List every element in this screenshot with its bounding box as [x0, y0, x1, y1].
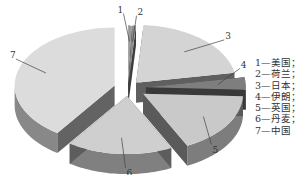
- legend-entry-4: 4—伊朗；: [255, 91, 301, 102]
- slice-label-6: 6: [127, 168, 133, 175]
- legend-entry-7: 7—中国: [255, 125, 301, 136]
- legend-entry-1: 1—美国；: [255, 57, 301, 68]
- slice-label-5: 5: [212, 145, 218, 155]
- legend-entry-3: 3—日本；: [255, 80, 301, 91]
- slice-label-1: 1: [118, 5, 124, 15]
- slice-label-3: 3: [225, 31, 231, 41]
- legend-entry-2: 2—荷兰；: [255, 68, 301, 79]
- pie-slice-top-3: [136, 25, 234, 83]
- legend-entry-6: 6—丹麦；: [255, 113, 301, 124]
- slice-label-4: 4: [241, 60, 247, 70]
- slice-label-7: 7: [10, 50, 16, 60]
- slice-label-2: 2: [138, 7, 144, 17]
- legend: 1—美国； 2—荷兰； 3—日本； 4—伊朗； 5—英国； 6—丹麦； 7—中国: [255, 57, 301, 136]
- legend-entry-5: 5—英国；: [255, 102, 301, 113]
